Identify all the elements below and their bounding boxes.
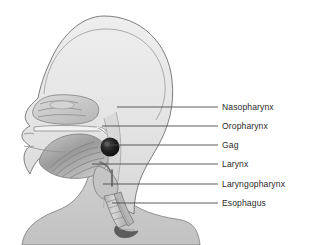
label-oropharynx: Oropharynx (222, 121, 268, 131)
nasal-cavity-turbinates (33, 95, 99, 125)
anatomy-illustration (0, 0, 319, 245)
uvula-gag-point (101, 138, 120, 157)
label-gag: Gag (222, 140, 239, 150)
label-esophagus: Esophagus (222, 198, 266, 208)
label-larynx: Larynx (222, 159, 248, 169)
anatomy-figure: Nasopharynx Oropharynx Gag Larynx Laryng… (0, 0, 319, 245)
label-laryngopharynx: Laryngopharynx (222, 179, 285, 189)
label-nasopharynx: Nasopharynx (222, 102, 274, 112)
